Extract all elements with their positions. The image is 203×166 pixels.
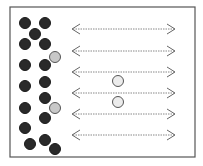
dark-particle xyxy=(20,81,31,92)
gray-particle xyxy=(50,52,61,63)
dark-particle xyxy=(50,144,61,155)
dark-particle xyxy=(25,139,36,150)
dark-particle xyxy=(40,93,51,104)
dark-particle xyxy=(40,77,51,88)
dark-particle xyxy=(40,39,51,50)
dark-particle xyxy=(40,60,51,71)
gray-particle xyxy=(50,103,61,114)
light-particle xyxy=(113,97,124,108)
dark-particle xyxy=(40,135,51,146)
dark-particle xyxy=(40,18,51,29)
particle-diffusion-diagram xyxy=(0,0,203,166)
dark-particle xyxy=(20,18,31,29)
dark-particle xyxy=(30,29,41,40)
dark-particle xyxy=(20,103,31,114)
light-particle xyxy=(113,76,124,87)
dark-particle xyxy=(20,60,31,71)
dark-particle xyxy=(20,123,31,134)
dark-particle xyxy=(20,39,31,50)
dark-particle xyxy=(40,113,51,124)
